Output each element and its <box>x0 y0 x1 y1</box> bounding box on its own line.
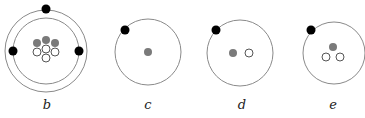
panel-label-d: d <box>232 97 252 112</box>
neutron-dot <box>322 53 330 61</box>
electron-dot <box>9 47 18 56</box>
atom-b <box>5 5 87 93</box>
neutron-dot <box>33 48 41 56</box>
atom-e <box>303 22 365 84</box>
panel-label-c: c <box>138 97 158 112</box>
proton-dot <box>42 36 50 44</box>
electron-dot <box>212 26 221 35</box>
electron-dot <box>42 5 51 14</box>
proton-dot <box>144 48 152 56</box>
electron-dot <box>307 26 316 35</box>
proton-dot <box>51 39 59 47</box>
proton-dot <box>229 49 237 57</box>
electron-dot <box>75 47 84 56</box>
neutron-dot <box>42 45 50 53</box>
atom-c <box>115 19 181 85</box>
panel-label-e: e <box>323 97 343 112</box>
neutron-dot <box>42 54 50 62</box>
electron-dot <box>121 26 130 35</box>
panel-label-b: b <box>37 97 57 112</box>
proton-dot <box>33 39 41 47</box>
neutron-dot <box>51 48 59 56</box>
proton-dot <box>329 43 337 51</box>
neutron-dot <box>336 53 344 61</box>
atom-d <box>207 20 273 86</box>
neutron-dot <box>245 49 253 57</box>
